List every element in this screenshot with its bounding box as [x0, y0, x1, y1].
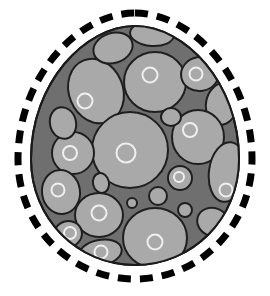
cell-nucleus	[183, 123, 197, 137]
cell-nucleus	[52, 184, 65, 197]
cell-nucleus	[148, 235, 163, 250]
cell-body	[127, 198, 137, 208]
cell-body	[178, 203, 192, 217]
cell-group	[168, 166, 192, 190]
cell-group	[149, 187, 167, 205]
cell-nucleus	[78, 94, 93, 109]
cell-group	[124, 52, 186, 112]
cell-nucleus	[220, 184, 233, 197]
egg-diagram	[0, 0, 270, 296]
cell-body	[161, 108, 181, 126]
cell-body	[124, 52, 186, 112]
cell-nucleus	[92, 206, 107, 221]
cell-nucleus	[190, 68, 203, 81]
cell-nucleus	[174, 172, 184, 182]
cell-body	[149, 187, 167, 205]
cell-group	[127, 198, 137, 208]
cell-nucleus	[143, 68, 158, 83]
cell-nucleus	[117, 144, 136, 163]
cell-nucleus	[63, 146, 77, 160]
cell-group	[178, 203, 192, 217]
cell-group	[161, 108, 181, 126]
figure-root	[0, 0, 270, 296]
